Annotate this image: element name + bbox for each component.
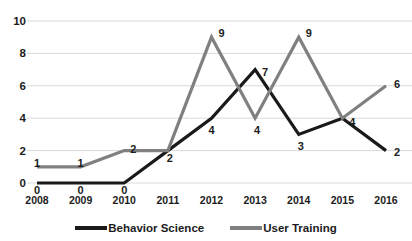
data-label-behavior-science-2014: 3 — [293, 140, 309, 152]
data-label-behavior-science-2008: 0 — [29, 184, 45, 196]
data-label-behavior-science-2011: 2 — [162, 152, 178, 164]
data-label-user-training-2012: 9 — [214, 27, 230, 39]
x-tick-2015: 2015 — [321, 194, 363, 206]
line-chart: 0246810 20082009201020112012201320142015… — [0, 0, 412, 241]
data-label-behavior-science-2012: 4 — [204, 124, 220, 136]
chart-legend: Behavior Science User Training — [0, 218, 412, 238]
data-label-behavior-science-2015: 4 — [344, 116, 360, 128]
x-tick-2012: 2012 — [191, 194, 233, 206]
data-label-behavior-science-2009: 0 — [73, 184, 89, 196]
data-label-user-training-2013: 4 — [249, 124, 265, 136]
y-tick-4: 4 — [2, 112, 26, 124]
data-label-user-training-2008: 1 — [29, 157, 45, 169]
legend-swatch-behavior-science — [75, 226, 107, 230]
data-label-user-training-2010: 2 — [125, 143, 141, 155]
data-label-user-training-2014: 9 — [301, 27, 317, 39]
data-label-behavior-science-2010: 0 — [116, 184, 132, 196]
data-label-behavior-science-2013: 7 — [257, 66, 273, 78]
y-tick-0: 0 — [2, 177, 26, 189]
series-line-user-training — [37, 37, 386, 167]
x-tick-2013: 2013 — [234, 194, 276, 206]
x-tick-2014: 2014 — [278, 194, 320, 206]
legend-label-behavior-science: Behavior Science — [108, 222, 204, 235]
data-label-user-training-2016: 6 — [389, 78, 405, 90]
series-lines — [37, 37, 386, 183]
legend-swatch-user-training — [230, 226, 262, 230]
legend-item-behavior-science: Behavior Science — [75, 222, 204, 235]
data-label-user-training-2009: 1 — [73, 157, 89, 169]
y-tick-10: 10 — [2, 15, 26, 27]
legend-item-user-training: User Training — [230, 222, 337, 235]
data-label-behavior-science-2016: 2 — [389, 146, 405, 158]
y-tick-6: 6 — [2, 80, 26, 92]
x-tick-2016: 2016 — [365, 194, 407, 206]
x-tick-2011: 2011 — [147, 194, 189, 206]
y-tick-8: 8 — [2, 47, 26, 59]
legend-label-user-training: User Training — [263, 222, 337, 235]
y-tick-2: 2 — [2, 145, 26, 157]
